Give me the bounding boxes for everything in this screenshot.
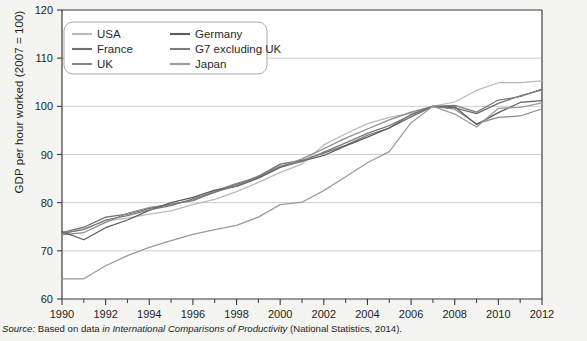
x-tick-label: 1996 [181,308,205,320]
source-lead: Based on data [38,323,100,334]
x-tick-label: 1990 [50,308,74,320]
y-axis-label: GDP per hour worked (2007 = 100) [13,0,25,217]
legend-label-germany: Germany [195,28,243,40]
x-tick-label: 2000 [268,308,292,320]
legend-label-g7-excluding-uk: G7 excluding UK [195,43,282,55]
line-chart: 60708090100110120 1990199219941996199820… [0,0,587,341]
y-tick-label: 60 [41,293,53,305]
x-tick-label: 2002 [312,308,336,320]
x-tick-label: 2012 [530,308,554,320]
y-tick-label: 70 [41,245,53,257]
chart-figure: 60708090100110120 1990199219941996199820… [0,0,587,341]
source-prefix: Source: [2,323,35,334]
legend-label-uk: UK [97,58,113,70]
x-tick-label: 1992 [93,308,117,320]
x-axis-ticks: 1990199219941996199820002002200420062008… [50,299,554,320]
source-in: in [102,323,109,334]
y-tick-label: 100 [35,100,53,112]
legend-label-japan: Japan [195,58,226,70]
y-tick-label: 120 [35,4,53,16]
chart-legend: USAFranceUKGermanyG7 excluding UKJapan [64,22,282,74]
x-tick-label: 2004 [355,308,379,320]
y-tick-label: 90 [41,149,53,161]
x-tick-label: 1994 [137,308,161,320]
x-tick-label: 1998 [224,308,248,320]
legend-label-usa: USA [97,28,121,40]
source-title: International Comparisons of Productivit… [112,323,287,334]
source-publisher: (National Statistics, 2014). [290,323,402,334]
legend-label-france: France [97,43,133,55]
y-tick-label: 80 [41,197,53,209]
x-tick-label: 2010 [486,308,510,320]
x-tick-label: 2006 [399,308,423,320]
source-caption: Source: Based on data in International C… [2,323,402,334]
x-tick-label: 2008 [442,308,466,320]
y-tick-label: 110 [35,52,53,64]
y-axis-ticks: 60708090100110120 [35,4,62,305]
